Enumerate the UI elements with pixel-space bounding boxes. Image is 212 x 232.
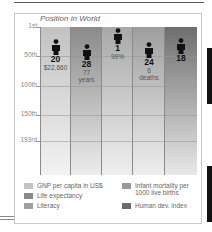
legend-label: Literacy [37,202,60,209]
gridline [40,86,197,87]
legend: GNP per capita in US$ Life expectancy Li… [24,182,204,222]
rank-value: 24 [133,58,165,67]
legend-swatch [122,203,131,209]
edge-bar-bottom [207,166,212,222]
legend-swatch [24,193,33,199]
rank-marker-literacy: 1 99% [102,28,133,60]
rank-marker-infant-mortality: 24 6 deaths [133,42,165,81]
rank-marker-gnp: 20 $22,660 [40,39,71,71]
legend-swatch [24,203,33,209]
y-tick-label: 100th [16,81,37,88]
value-label: $22,660 [40,64,71,71]
rank-marker-life-expectancy: 28 77 years [71,44,102,83]
legend-item-literacy: Literacy [24,202,60,209]
person-icon [113,28,123,44]
gridline [40,141,197,142]
legend-item-life-expectancy: Life expectancy [24,192,82,199]
gridline [40,115,197,116]
legend-item-human-dev-index: Human dev. index [122,202,187,209]
person-icon [144,42,154,58]
chart-title: Position in World [40,14,100,23]
legend-label-line2: 1000 live births [122,189,189,196]
plot-area: 20 $22,660 28 77 years 1 99% 24 6 deaths… [40,27,197,175]
value-label: 6 [133,67,165,74]
legend-label: Infant mortality per [135,182,189,189]
y-tick-label: 1st [16,22,37,29]
top-rule [14,2,204,3]
rank-value: 28 [71,60,102,69]
legend-item-infant-mortality: Infant mortality per 1000 live births [122,182,189,196]
legend-item-gnp: GNP per capita in US$ [24,182,103,189]
value-label: 77 [71,69,102,76]
y-tick-label: 150th [16,110,37,117]
person-icon [176,38,186,54]
rank-value: 18 [165,54,197,63]
rank-value: 20 [40,55,71,64]
value-unit: years [71,76,102,83]
value-label: 99% [102,53,133,60]
edge-bar-top [207,48,212,104]
legend-label: GNP per capita in US$ [37,182,103,189]
person-icon [51,39,61,55]
person-icon [82,44,92,60]
legend-swatch [122,183,131,189]
legend-swatch [24,183,33,189]
y-tick-label: 50th [16,51,37,58]
value-unit: deaths [133,74,165,81]
legend-label: Human dev. index [135,202,187,209]
rank-marker-human-dev-index: 18 [165,38,197,63]
y-tick-label: 193rd [16,136,37,143]
rank-value: 1 [102,44,133,53]
legend-label: Life expectancy [37,192,82,199]
